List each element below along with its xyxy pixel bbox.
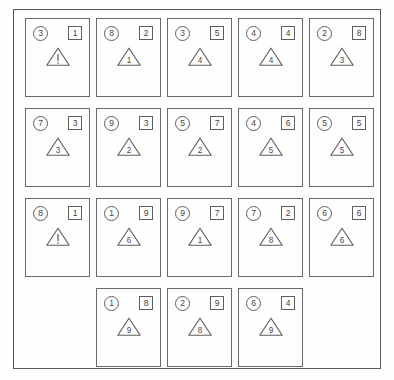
square-badge: 2 bbox=[139, 26, 153, 40]
circle-badge: 4 bbox=[246, 26, 261, 41]
triangle-value: 3 bbox=[55, 146, 60, 155]
square-badge: 8 bbox=[352, 26, 366, 40]
document-card[interactable]: 932 bbox=[96, 108, 161, 187]
triangle-value: 9 bbox=[126, 326, 131, 335]
warning-triangle-icon: 4 bbox=[258, 46, 284, 67]
square-badge: 4 bbox=[281, 26, 295, 40]
document-card[interactable]: 81 bbox=[25, 198, 90, 277]
warning-triangle-icon: 8 bbox=[258, 226, 284, 247]
triangle-value: 4 bbox=[197, 56, 202, 65]
warning-triangle-icon: 9 bbox=[258, 316, 284, 337]
triangle-value: 6 bbox=[126, 236, 131, 245]
document-card[interactable]: 298 bbox=[167, 288, 232, 367]
square-badge: 9 bbox=[139, 206, 153, 220]
square-badge: 7 bbox=[210, 206, 224, 220]
square-badge: 3 bbox=[139, 116, 153, 130]
circle-badge: 8 bbox=[33, 206, 48, 221]
circle-badge: 2 bbox=[175, 296, 190, 311]
circle-badge: 2 bbox=[317, 26, 332, 41]
warning-triangle-icon: 6 bbox=[116, 226, 142, 247]
circle-badge: 5 bbox=[317, 116, 332, 131]
warning-triangle-icon: 5 bbox=[258, 136, 284, 157]
grid-cell-empty bbox=[309, 288, 374, 367]
circle-badge: 9 bbox=[104, 116, 119, 131]
warning-triangle-icon: 3 bbox=[45, 136, 71, 157]
document-card[interactable]: 465 bbox=[238, 108, 303, 187]
warning-triangle-icon: 4 bbox=[187, 46, 213, 67]
document-card[interactable]: 196 bbox=[96, 198, 161, 277]
square-badge: 6 bbox=[352, 206, 366, 220]
document-card[interactable]: 572 bbox=[167, 108, 232, 187]
triangle-value: 9 bbox=[268, 326, 273, 335]
document-card[interactable]: 354 bbox=[167, 18, 232, 97]
warning-triangle-icon bbox=[45, 46, 71, 67]
triangle-value: 3 bbox=[339, 56, 344, 65]
triangle-value: 2 bbox=[126, 146, 131, 155]
triangle-value: 1 bbox=[197, 236, 202, 245]
grid-cell-empty bbox=[25, 288, 90, 367]
triangle-value: 4 bbox=[268, 56, 273, 65]
circle-badge: 4 bbox=[246, 116, 261, 131]
circle-badge: 9 bbox=[175, 206, 190, 221]
document-card[interactable]: 555 bbox=[309, 108, 374, 187]
document-card[interactable]: 189 bbox=[96, 288, 161, 367]
triangle-value: 6 bbox=[339, 236, 344, 245]
warning-triangle-icon: 1 bbox=[116, 46, 142, 67]
square-badge: 9 bbox=[210, 296, 224, 310]
square-badge: 1 bbox=[68, 26, 82, 40]
warning-triangle-icon: 5 bbox=[329, 136, 355, 157]
warning-triangle-icon: 3 bbox=[329, 46, 355, 67]
warning-triangle-icon: 1 bbox=[187, 226, 213, 247]
warning-triangle-icon: 2 bbox=[187, 136, 213, 157]
square-badge: 5 bbox=[210, 26, 224, 40]
circle-badge: 1 bbox=[104, 206, 119, 221]
circle-badge: 6 bbox=[246, 296, 261, 311]
document-card[interactable]: 971 bbox=[167, 198, 232, 277]
warning-triangle-icon: 8 bbox=[187, 316, 213, 337]
warning-triangle-icon bbox=[45, 226, 71, 247]
square-badge: 4 bbox=[281, 296, 295, 310]
document-card[interactable]: 733 bbox=[25, 108, 90, 187]
warning-triangle-icon: 9 bbox=[116, 316, 142, 337]
document-card[interactable]: 728 bbox=[238, 198, 303, 277]
circle-badge: 3 bbox=[33, 26, 48, 41]
triangle-value: 8 bbox=[197, 326, 202, 335]
triangle-value: 1 bbox=[126, 56, 131, 65]
circle-badge: 8 bbox=[104, 26, 119, 41]
triangle-value: 5 bbox=[339, 146, 344, 155]
circle-badge: 6 bbox=[317, 206, 332, 221]
document-card[interactable]: 444 bbox=[238, 18, 303, 97]
circle-badge: 3 bbox=[175, 26, 190, 41]
square-badge: 8 bbox=[139, 296, 153, 310]
document-card[interactable]: 283 bbox=[309, 18, 374, 97]
document-card[interactable]: 666 bbox=[309, 198, 374, 277]
document-card[interactable]: 31 bbox=[25, 18, 90, 97]
square-badge: 7 bbox=[210, 116, 224, 130]
circle-badge: 1 bbox=[104, 296, 119, 311]
square-badge: 2 bbox=[281, 206, 295, 220]
document-card[interactable]: 821 bbox=[96, 18, 161, 97]
circle-badge: 7 bbox=[246, 206, 261, 221]
warning-triangle-icon: 2 bbox=[116, 136, 142, 157]
square-badge: 3 bbox=[68, 116, 82, 130]
square-badge: 1 bbox=[68, 206, 82, 220]
square-badge: 6 bbox=[281, 116, 295, 130]
square-badge: 5 bbox=[352, 116, 366, 130]
triangle-value: 8 bbox=[268, 236, 273, 245]
warning-triangle-icon: 6 bbox=[329, 226, 355, 247]
circle-badge: 7 bbox=[33, 116, 48, 131]
triangle-value: 2 bbox=[197, 146, 202, 155]
scan-sheet: 3182135444428373393257246555581196971728… bbox=[0, 0, 394, 380]
document-card[interactable]: 649 bbox=[238, 288, 303, 367]
triangle-value: 5 bbox=[268, 146, 273, 155]
circle-badge: 5 bbox=[175, 116, 190, 131]
card-grid: 3182135444428373393257246555581196971728… bbox=[25, 18, 373, 362]
